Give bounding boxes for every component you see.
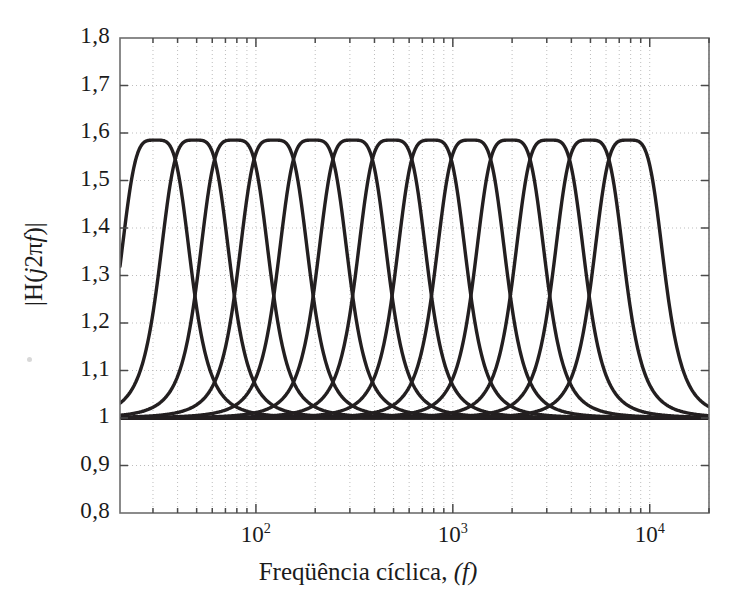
x-axis-title: Freqüência cíclica, (f) [0, 558, 736, 586]
y-axis-title-open: |H( [20, 275, 47, 306]
y-tick-label: 1,2 [40, 308, 110, 334]
y-axis-title-j: j [20, 268, 47, 275]
y-tick-label: 0,8 [40, 498, 110, 524]
x-tick-exponent: 4 [658, 520, 665, 536]
x-tick-label: 102 [216, 522, 296, 548]
x-tick-mantissa: 10 [241, 522, 264, 547]
x-tick-exponent: 2 [264, 520, 271, 536]
y-axis-title-close: )| [20, 222, 47, 235]
y-tick-label: 1,1 [40, 356, 110, 382]
y-axis-title: |H(j2πf)| [20, 134, 48, 394]
y-tick-label: 1 [40, 403, 110, 429]
x-tick-exponent: 3 [461, 520, 468, 536]
y-axis-title-f: f [20, 235, 47, 242]
y-axis-title-2pi: 2π [20, 242, 47, 267]
x-tick-mantissa: 10 [635, 522, 658, 547]
x-tick-label: 104 [610, 522, 690, 548]
x-axis-title-text: Freqüência cíclica, [259, 558, 448, 585]
y-tick-label: 1,4 [40, 213, 110, 239]
figure-canvas: 1,81,71,61,51,41,31,21,110,90,8 10210310… [0, 0, 736, 613]
y-tick-label: 1,3 [40, 261, 110, 287]
x-axis-title-variable: (f) [454, 558, 478, 585]
y-tick-label: 1,5 [40, 166, 110, 192]
y-tick-label: 1,8 [40, 23, 110, 49]
y-tick-label: 1,7 [40, 71, 110, 97]
y-tick-label: 1,6 [40, 118, 110, 144]
y-tick-label: 0,9 [40, 451, 110, 477]
x-tick-mantissa: 10 [438, 522, 461, 547]
x-tick-label: 103 [413, 522, 493, 548]
scan-speck [27, 357, 32, 362]
